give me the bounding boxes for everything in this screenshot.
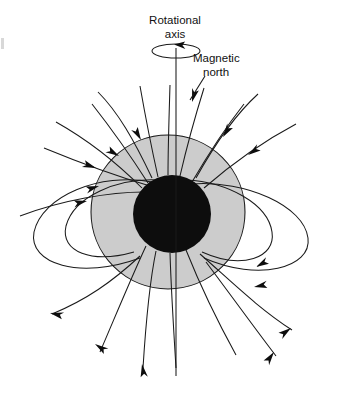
magnetic-field-diagram: Rotational axis Magnetic north [0,0,344,397]
magnetic-north-leader-line [190,76,205,100]
arrowhead-inward-3 [188,88,199,103]
arrowhead-loop-right-1 [254,257,269,270]
magnetic-north-label-line2: north [203,66,229,78]
arrowhead-outward-5 [263,350,277,365]
rotational-axis-label-line1: Rotational [149,14,201,26]
field-line-open-bottom-3 [206,262,276,356]
arrowhead-loop-right-2 [253,281,268,290]
arrowhead-outward-4 [278,325,293,339]
diagram-canvas: Rotational axis Magnetic north [0,0,344,397]
arrowhead-inward-6 [82,160,97,172]
arrowhead-outward-2 [93,341,108,355]
arrowhead-outward-1 [49,309,64,319]
arrowhead-rotation-direction [174,41,186,49]
rotational-axis-label-line2: axis [165,28,186,40]
planet-core [133,175,211,253]
magnetic-north-label-line1: Magnetic [193,52,240,64]
scan-edge-artifact [1,38,4,49]
